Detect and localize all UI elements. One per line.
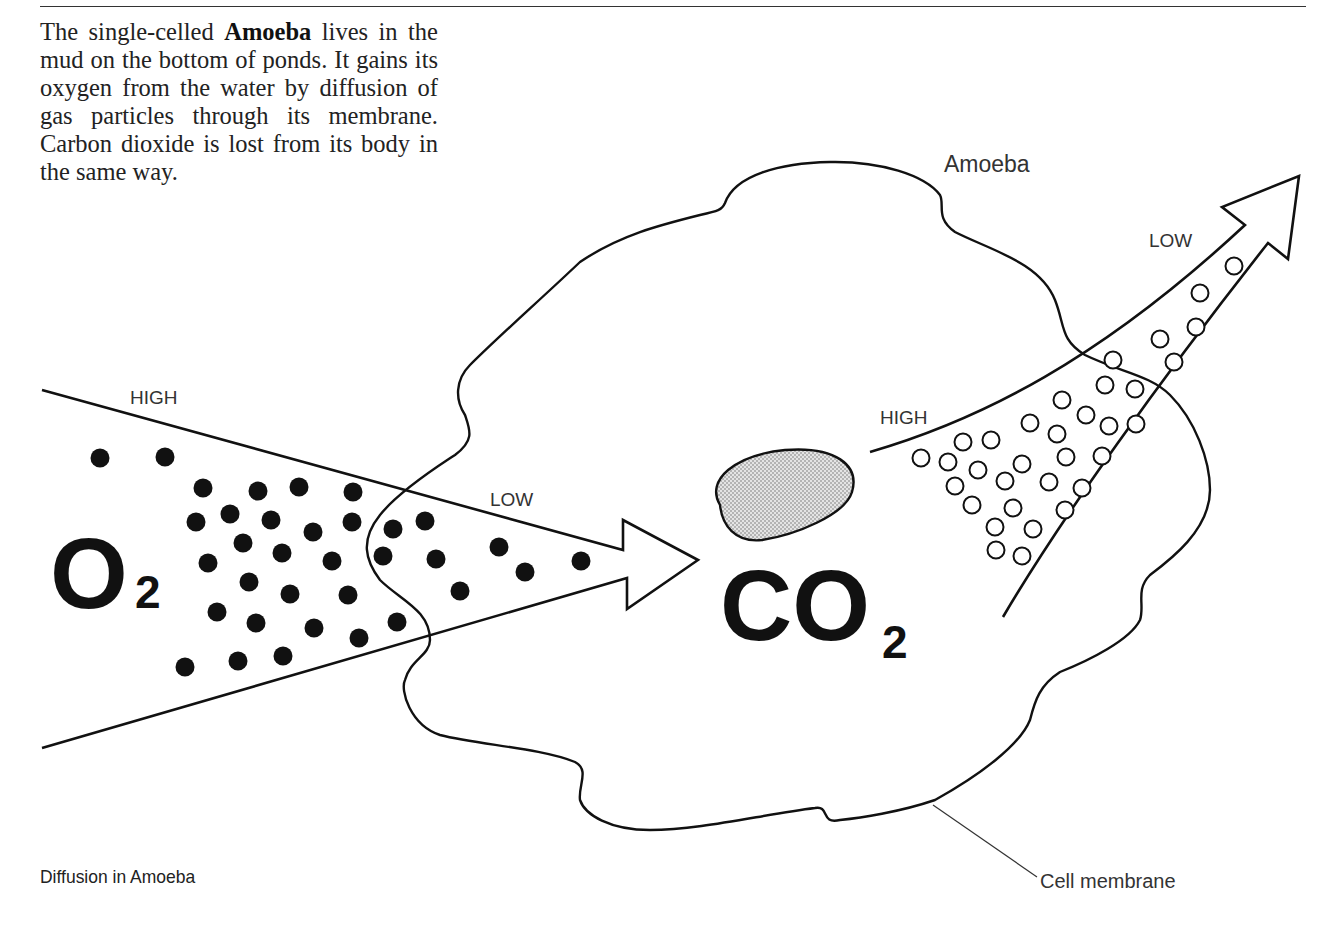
label-o2-low: LOW xyxy=(490,489,533,510)
co2-particles xyxy=(913,258,1243,565)
membrane-pointer-line xyxy=(933,805,1037,877)
nucleus xyxy=(716,449,853,540)
oxygen-formula: O 2 xyxy=(50,517,161,629)
co2-diffusion-arrow xyxy=(870,176,1299,617)
diffusion-diagram: HIGH LOW HIGH LOW Amoeba Cell membrane O… xyxy=(0,0,1336,925)
label-o2-high: HIGH xyxy=(130,387,178,408)
label-co2-low: LOW xyxy=(1149,230,1192,251)
carbon-dioxide-formula: CO 2 xyxy=(720,549,908,668)
oxygen-symbol: O xyxy=(50,517,128,629)
label-co2-high: HIGH xyxy=(880,407,928,428)
label-cell-membrane: Cell membrane xyxy=(1040,870,1176,892)
oxygen-subscript: 2 xyxy=(135,566,161,618)
carbon-dioxide-symbol: CO xyxy=(720,549,870,661)
label-amoeba: Amoeba xyxy=(944,151,1030,177)
carbon-dioxide-subscript: 2 xyxy=(882,616,908,668)
figure-caption: Diffusion in Amoeba xyxy=(40,866,195,888)
o2-particles xyxy=(91,448,591,677)
